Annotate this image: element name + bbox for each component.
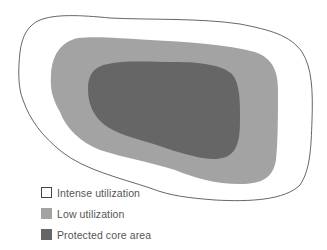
legend-label: Protected core area [57, 229, 151, 241]
legend-label: Intense utilization [57, 187, 140, 199]
swatch-white-icon [41, 187, 52, 198]
legend-item-intense-utilization: Intense utilization [41, 182, 151, 203]
legend-item-protected-core-area: Protected core area [41, 224, 151, 245]
legend: Intense utilization Low utilization Prot… [41, 182, 151, 245]
legend-item-low-utilization: Low utilization [41, 203, 151, 224]
legend-label: Low utilization [57, 208, 124, 220]
swatch-light-gray-icon [41, 208, 52, 219]
swatch-dark-gray-icon [41, 229, 52, 240]
